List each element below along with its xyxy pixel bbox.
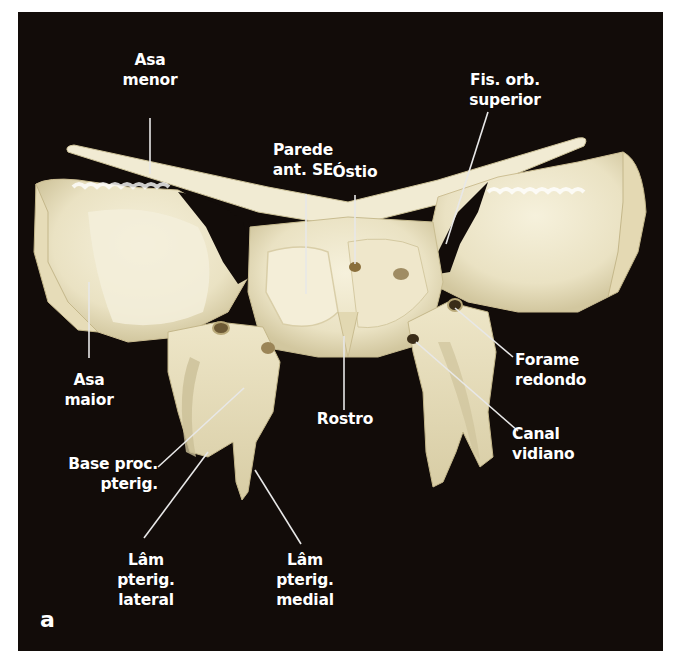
foramen-rotundum-right [448, 299, 462, 311]
label-lam-pterig-medial: Lâm pterig. medial [272, 550, 338, 610]
greater-wing-left [34, 179, 250, 342]
vidian-canal-left [261, 342, 275, 354]
pterygoid-process-right [407, 299, 496, 487]
panel-letter: a [40, 608, 55, 632]
label-asa-menor: Asa menor [115, 50, 185, 90]
pterygoid-process-left [168, 322, 280, 500]
label-base-proc-pterig: Base proc. pterig. [48, 454, 158, 494]
label-lam-pterig-lateral: Lâm pterig. lateral [113, 550, 179, 610]
foramen-rotundum-left [213, 322, 229, 334]
label-ostio: Óstio [323, 162, 387, 182]
label-fis-orb-superior: Fis. orb. superior [460, 70, 550, 110]
label-forame-redondo: Forame redondo [515, 350, 610, 390]
label-asa-maior: Asa maior [58, 370, 120, 410]
sphenoid-photo: Asa menor Parede ant. SE Óstio Fis. orb.… [18, 12, 663, 651]
leader-lam-pterig-medial [255, 470, 301, 544]
label-canal-vidiano: Canal vidiano [512, 424, 597, 464]
label-rostro: Rostro [306, 409, 384, 429]
